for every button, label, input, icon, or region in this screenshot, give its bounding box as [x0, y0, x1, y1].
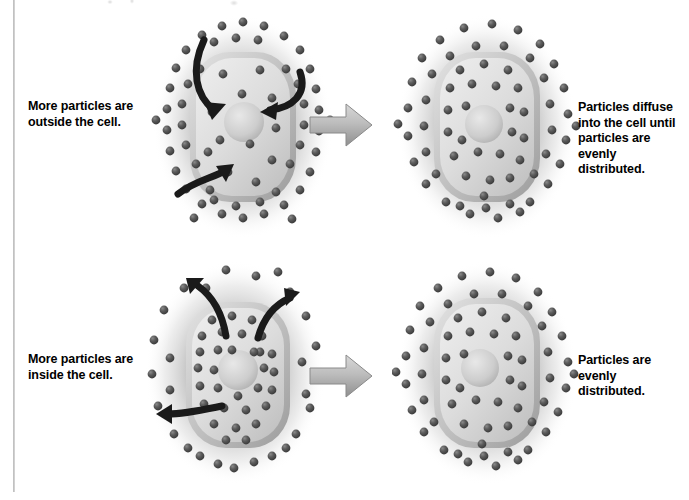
caption-top-left: More particles are outside the cell. [28, 99, 178, 130]
caption-bottom-left-line2: inside the cell. [28, 368, 178, 384]
caption-top-right: Particles diffuse into the cell until pa… [578, 100, 688, 178]
caption-bottom-left: More particles are inside the cell. [28, 352, 178, 383]
nucleus-icon [218, 350, 258, 390]
cell-evenly-distributed-top [392, 12, 582, 242]
caption-bottom-left-line1: More particles are [28, 352, 178, 368]
caption-bottom-right-line1: Particles are evenly [578, 353, 688, 384]
transition-arrow-bottom [308, 352, 374, 400]
caption-top-right-line4: distributed. [578, 162, 688, 178]
diagram-page: More particles are outside the cell. Par… [0, 0, 689, 500]
caption-top-left-line2: outside the cell. [28, 115, 178, 131]
page-left-rule [13, 0, 15, 492]
transition-arrow-top [308, 101, 374, 149]
caption-top-left-line1: More particles are [28, 99, 178, 115]
caption-top-right-line3: particles are evenly [578, 131, 688, 162]
nucleus-icon [224, 102, 264, 142]
nucleus-icon [465, 105, 503, 143]
clipped-text-smudge [96, 0, 256, 9]
cell-evenly-distributed-bottom [392, 258, 582, 488]
caption-top-right-line1: Particles diffuse [578, 100, 688, 116]
caption-top-right-line2: into the cell until [578, 116, 688, 132]
caption-bottom-right: Particles are evenly distributed. [578, 353, 688, 400]
caption-bottom-right-line2: distributed. [578, 384, 688, 400]
